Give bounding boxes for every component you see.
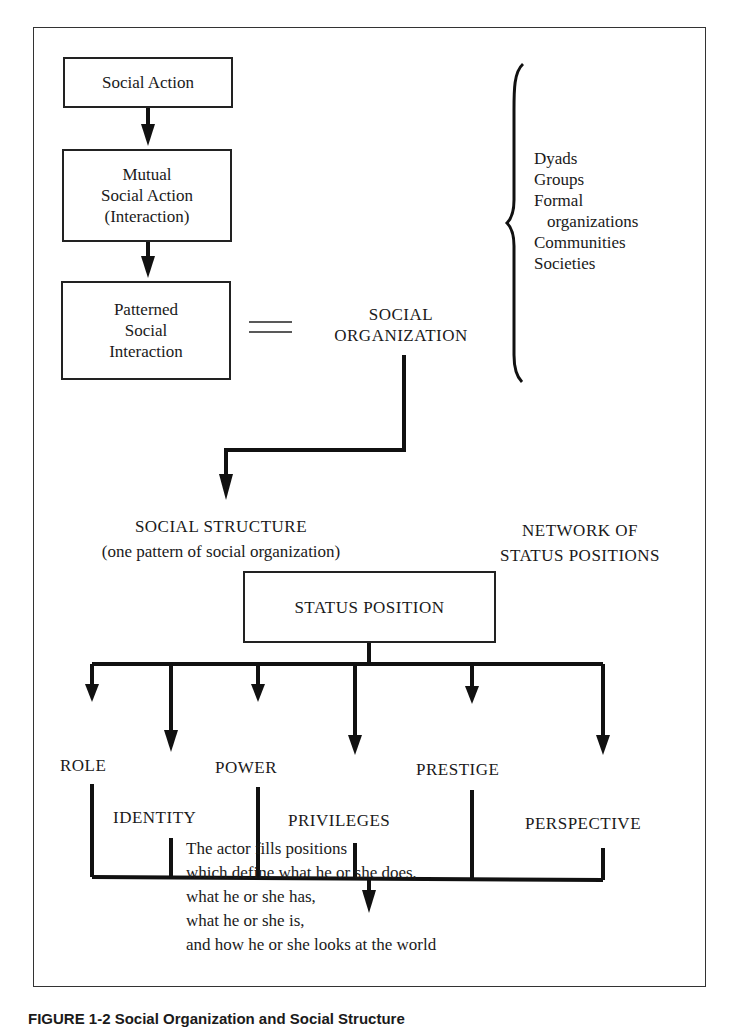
node-social-action: Social Action xyxy=(63,57,233,108)
arrowhead-icon xyxy=(141,124,155,146)
node-patterned-social-interaction: Patterned Social Interaction xyxy=(61,281,231,380)
node-social-structure: SOCIAL STRUCTURE (one pattern of social … xyxy=(46,516,396,562)
arrowhead-icon xyxy=(219,474,233,500)
component-power: POWER xyxy=(215,757,277,778)
component-privileges: PRIVILEGES xyxy=(288,810,390,831)
component-prestige: PRESTIGE xyxy=(416,759,499,780)
list-item: Dyads xyxy=(534,148,638,169)
component-perspective: PERSPECTIVE xyxy=(525,813,641,834)
list-item: Societies xyxy=(534,253,638,274)
list-item: Groups xyxy=(534,169,638,190)
node-status-position: STATUS POSITION xyxy=(243,571,496,643)
list-item: organizations xyxy=(534,211,638,232)
conclusion-text: The actor fills positions which define w… xyxy=(186,837,436,957)
list-item: Formal xyxy=(534,190,638,211)
node-social-organization: SOCIAL ORGANIZATION xyxy=(306,304,496,346)
arrowhead-icon xyxy=(141,256,155,278)
component-identity: IDENTITY xyxy=(113,807,196,828)
list-item: Communities xyxy=(534,232,638,253)
node-network-of-status-positions: NETWORK OF STATUS POSITIONS xyxy=(460,520,700,566)
figure-caption: FIGURE 1-2 Social Organization and Socia… xyxy=(28,1010,405,1027)
curly-brace xyxy=(507,64,523,382)
component-role: ROLE xyxy=(60,755,106,776)
node-mutual-social-action: Mutual Social Action (Interaction) xyxy=(62,149,232,242)
organization-types-list: Dyads Groups Formal organizations Commun… xyxy=(534,148,638,274)
